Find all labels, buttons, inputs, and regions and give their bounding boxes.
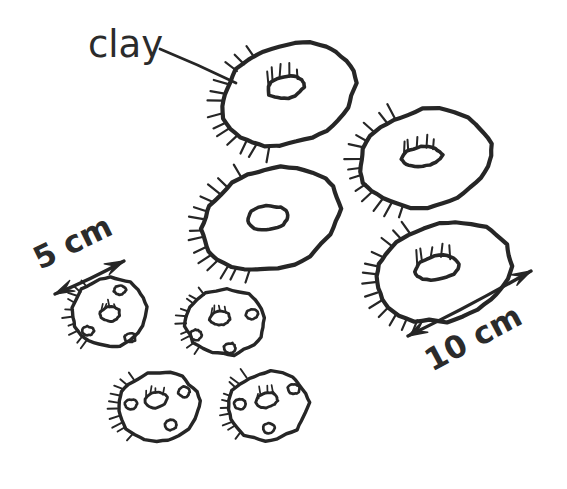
- rim-hatch-mark: [249, 145, 256, 157]
- rim-hatch-mark: [220, 414, 229, 416]
- rim-hatch-mark: [235, 55, 244, 65]
- rim-hatch-mark: [189, 295, 197, 299]
- rim-hatch-mark: [241, 369, 247, 378]
- rim-hatch-mark: [120, 379, 127, 385]
- disc-middle: [189, 165, 342, 283]
- rim-hatch-mark: [241, 142, 247, 154]
- rim-hatch-mark: [225, 62, 237, 71]
- disc-speck: [246, 309, 258, 319]
- rim-hatch-mark: [379, 308, 388, 317]
- disc-speck: [165, 420, 177, 431]
- small-disc-group: [62, 277, 310, 442]
- rim-hatch-mark: [349, 144, 364, 147]
- disc-hole: [268, 76, 304, 99]
- arrow-head: [511, 271, 531, 285]
- rim-hatch-mark: [110, 416, 119, 419]
- small-disc-bottom-left: [108, 372, 201, 441]
- rim-hatch-mark: [194, 247, 206, 253]
- disc-top-right: [344, 104, 491, 217]
- rim-hatch-mark: [246, 270, 250, 282]
- rim-hatch-mark: [189, 237, 203, 240]
- rim-hatch-mark: [109, 401, 118, 402]
- rim-hatch-mark: [187, 343, 194, 348]
- disc-speck: [82, 326, 94, 336]
- rim-hatch-mark: [129, 373, 134, 380]
- hole-hatch-mark: [417, 137, 418, 148]
- hole-hatch-mark: [408, 140, 409, 151]
- rim-hatch-mark: [175, 323, 186, 324]
- rim-hatch-mark: [369, 301, 381, 309]
- rim-hatch-mark: [231, 268, 237, 279]
- rim-hatch-mark: [230, 382, 236, 387]
- rim-hatch-mark: [181, 331, 187, 333]
- clay-diagram-svg: clay 5 cm 10 cm: [0, 0, 567, 489]
- rim-hatch-mark: [390, 313, 397, 325]
- rim-hatch-mark: [176, 315, 187, 316]
- rim-hatch-mark: [118, 427, 125, 431]
- disc-top-left: [208, 42, 357, 162]
- hole-hatch-mark: [416, 250, 417, 264]
- rim-hatch-mark: [356, 135, 367, 141]
- small-disc-left: [62, 277, 147, 348]
- figure-canvas: clay 5 cm 10 cm: [0, 0, 567, 489]
- rim-hatch-mark: [393, 230, 401, 239]
- rim-hatch-mark: [217, 129, 229, 137]
- rim-hatch-mark: [207, 260, 218, 270]
- rim-hatch-mark: [211, 91, 224, 93]
- rim-hatch-mark: [208, 184, 220, 193]
- rim-hatch-mark: [362, 282, 375, 284]
- rim-hatch-mark: [221, 266, 229, 279]
- rim-hatch-mark: [365, 264, 378, 267]
- arrow-head: [104, 261, 124, 275]
- rim-hatch-mark: [227, 136, 236, 145]
- hole-hatch-mark: [420, 249, 422, 261]
- hole-hatch-mark: [257, 394, 258, 399]
- rim-hatch-mark: [214, 123, 226, 128]
- disc-speck: [263, 423, 275, 433]
- hole-hatch-mark: [280, 64, 281, 77]
- clay-leader-line: [160, 49, 236, 83]
- rim-hatch-mark: [189, 217, 203, 220]
- hole-hatch-mark: [404, 141, 405, 154]
- hole-hatch-mark: [449, 245, 450, 259]
- rim-hatch-mark: [234, 165, 242, 179]
- rim-hatch-mark: [182, 336, 190, 340]
- scale-label-5cm: 5 cm: [27, 208, 117, 277]
- rim-hatch-mark: [387, 104, 394, 118]
- rim-hatch-mark: [356, 184, 366, 191]
- rim-hatch-mark: [379, 113, 387, 123]
- disc-hole: [248, 206, 288, 230]
- small-disc-middle: [175, 288, 264, 356]
- rim-hatch-mark: [402, 222, 410, 234]
- rim-hatch-mark: [201, 197, 213, 202]
- disc-speck: [178, 386, 190, 397]
- rim-hatch-mark: [81, 339, 88, 348]
- rim-hatch-mark: [195, 347, 200, 354]
- large-disc-group: [189, 42, 513, 333]
- rim-hatch-mark: [365, 293, 377, 297]
- clay-label: clay: [88, 23, 163, 66]
- rim-hatch-mark: [208, 114, 222, 118]
- rim-hatch-mark: [247, 46, 255, 57]
- rim-hatch-mark: [362, 192, 372, 201]
- rim-hatch-mark: [199, 255, 212, 264]
- hole-hatch-mark: [272, 67, 273, 80]
- rim-hatch-mark: [228, 426, 235, 430]
- disc-speck: [125, 399, 137, 409]
- hole-hatch-mark: [267, 72, 268, 85]
- rim-hatch-mark: [382, 238, 392, 246]
- rim-hatch-mark: [399, 206, 403, 218]
- disc-speck: [114, 286, 127, 295]
- rim-hatch-mark: [348, 168, 360, 170]
- rim-hatch-mark: [363, 273, 376, 274]
- rim-hatch-mark: [372, 252, 383, 257]
- hole-hatch-mark: [259, 386, 260, 394]
- rim-hatch-mark: [114, 386, 123, 390]
- disc-hole: [145, 392, 167, 408]
- rim-hatch-mark: [187, 299, 194, 304]
- annotation-group: [55, 49, 531, 336]
- hole-hatch-mark: [225, 307, 226, 313]
- disc-outline: [222, 42, 356, 146]
- hole-hatch-mark: [433, 139, 434, 149]
- rim-hatch-mark: [236, 432, 241, 439]
